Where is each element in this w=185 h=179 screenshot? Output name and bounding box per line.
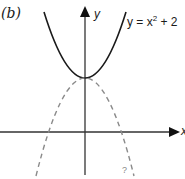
equation-label: y = x2 + 2 [127, 14, 178, 29]
equation-prefix: y = x [127, 15, 153, 29]
y-axis-label: y [94, 7, 100, 21]
y-axis-arrow-icon [80, 6, 90, 17]
x-axis-arrow-icon [169, 127, 180, 137]
equation-suffix: + 2 [157, 15, 177, 29]
x-axis-label: x [181, 124, 185, 138]
figure-label: (b) [1, 5, 21, 21]
stray-mark: ? [122, 165, 127, 175]
